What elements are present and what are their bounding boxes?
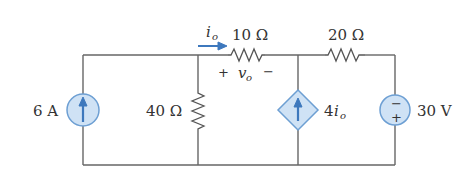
vsource-bottom-sign: + [391, 110, 402, 125]
resistor-40-ohm: 40 Ω [146, 90, 204, 130]
current-source-6a: 6 A [33, 94, 99, 126]
vo-minus: − [263, 64, 274, 79]
vo-plus: + [218, 65, 229, 80]
resistor-20-ohm: 20 Ω [325, 26, 365, 61]
io-sub: o [212, 31, 218, 42]
dep-source-var: i [334, 102, 339, 120]
vsource-top-sign: − [391, 96, 402, 111]
resistor-10-ohm: 10 Ω [228, 26, 268, 61]
dep-source-sub: o [340, 110, 346, 121]
dependent-current-source: 4 i o [278, 90, 346, 130]
resistor-20-label: 20 Ω [328, 26, 364, 44]
vo-sub: o [246, 72, 252, 83]
resistor-10-label: 10 Ω [232, 26, 268, 44]
voltage-source-30v: − + 30 V [380, 95, 453, 125]
current-io-indicator: i o [198, 23, 227, 50]
voltage-source-label: 30 V [417, 102, 453, 120]
current-source-label: 6 A [33, 102, 58, 120]
dep-source-coef: 4 [324, 102, 334, 120]
io-var: i [206, 23, 211, 41]
resistor-40-label: 40 Ω [146, 102, 182, 120]
circuit-diagram: 6 A 40 Ω 10 Ω i o + v o − 20 Ω 4 i o [0, 0, 473, 181]
voltage-vo-indicator: + v o − [218, 64, 274, 83]
